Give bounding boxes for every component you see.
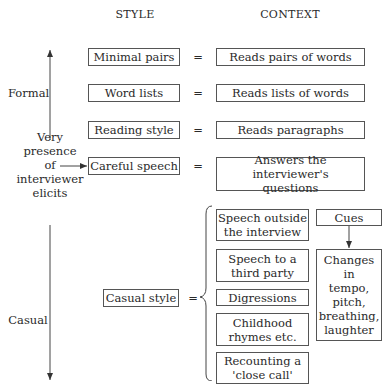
equals-sign: = — [191, 159, 205, 173]
context-column-header: CONTEXT — [255, 8, 325, 22]
context-box-third-party: Speech to a third party — [216, 249, 309, 282]
context-box-lists: Reads lists of words — [216, 84, 365, 102]
context-box-close-call: Recounting a 'close call' — [216, 352, 309, 384]
style-box-word-lists: Word lists — [88, 84, 180, 102]
casual-label: Casual — [8, 313, 48, 327]
formal-label: Formal — [8, 86, 48, 100]
equals-sign: = — [191, 123, 205, 137]
interviewer-label: Very presence of interviewer elicits — [16, 130, 84, 200]
context-box-pairs: Reads pairs of words — [216, 48, 365, 66]
context-box-answers: Answers the interviewer's questions — [216, 157, 365, 191]
context-box-paragraphs: Reads paragraphs — [216, 121, 365, 139]
equals-sign: = — [191, 86, 205, 100]
cues-detail-box: Changes in tempo, pitch, breathing, laug… — [316, 249, 382, 341]
equals-sign: = — [191, 50, 205, 64]
context-box-speech-outside: Speech outside the interview — [216, 209, 309, 241]
style-box-minimal-pairs: Minimal pairs — [88, 48, 180, 66]
style-box-reading: Reading style — [88, 121, 180, 139]
style-box-careful-speech: Careful speech — [88, 157, 180, 175]
style-column-header: STYLE — [110, 8, 160, 22]
context-box-digressions: Digressions — [216, 289, 309, 306]
equals-sign: = — [186, 291, 200, 305]
cues-box: Cues — [316, 209, 382, 226]
context-box-childhood: Childhood rhymes etc. — [216, 313, 309, 346]
casual-brace — [200, 206, 212, 381]
style-box-casual: Casual style — [103, 289, 179, 307]
